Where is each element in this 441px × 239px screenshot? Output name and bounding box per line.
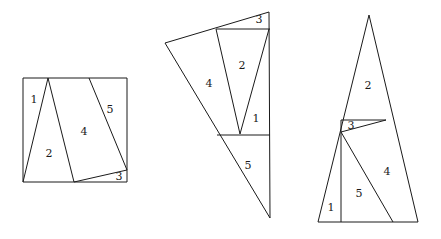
square-dissection-region-label-5: 5	[107, 103, 114, 116]
square-dissection: 12345	[23, 78, 127, 183]
square-dissection-region-label-4: 4	[81, 125, 88, 138]
figure-canvas: 123451234512345	[0, 0, 441, 239]
square-dissection-region-label-2: 2	[46, 147, 53, 160]
tall-triangle-dissection-region-label-3: 3	[348, 119, 355, 132]
dissection-figure-sheet: 123451234512345	[0, 0, 441, 239]
square-outline	[23, 78, 127, 182]
square-dissection-region-label-3: 3	[116, 170, 123, 183]
tall-triangle-dissection: 12345	[318, 15, 418, 222]
scalene-triangle-dissection-region-label-3: 3	[256, 13, 263, 26]
scalene-triangle-dissection-region-label-1: 1	[253, 112, 260, 125]
square-dissection-region-label-1: 1	[31, 93, 38, 106]
tall-triangle-dissection-region-label-4: 4	[384, 165, 391, 178]
scalene-triangle-dissection: 12345	[165, 12, 270, 218]
scalene-triangle-dissection-region-label-4: 4	[206, 77, 213, 90]
scalene-triangle-dissection-region-label-2: 2	[239, 59, 246, 72]
tall-triangle-outline	[318, 15, 418, 222]
tall-triangle-dissection-region-label-2: 2	[365, 79, 372, 92]
tall-triangle-dissection-region-label-5: 5	[356, 187, 363, 200]
scalene-triangle-dissection-region-label-5: 5	[245, 159, 252, 172]
tall-triangle-dissection-region-label-1: 1	[328, 201, 335, 214]
